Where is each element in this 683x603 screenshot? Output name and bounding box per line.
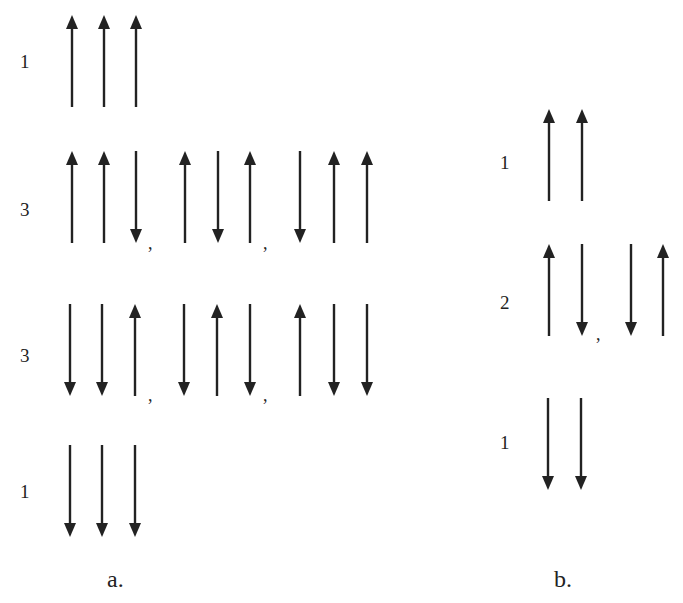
panel-b-row3 [542,398,587,490]
panel-b-row1 [543,109,588,201]
panel-b-row2 [543,244,669,336]
panel-a-row1 [66,15,142,107]
spin-diagram [0,0,683,603]
panel-a-row2 [66,151,373,243]
panel-a-row4 [64,445,141,537]
panel-a-row3 [64,304,373,396]
